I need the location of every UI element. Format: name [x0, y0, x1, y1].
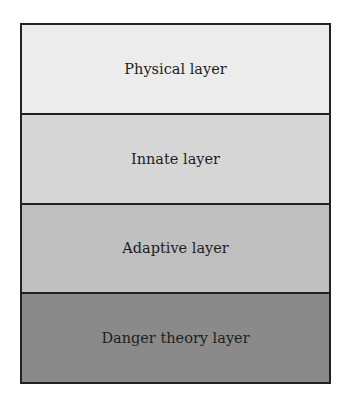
physical-layer-label: Physical layer	[124, 61, 226, 77]
danger-theory-layer-label: Danger theory layer	[101, 330, 249, 346]
danger-theory-layer: Danger theory layer	[22, 294, 329, 382]
innate-layer: Innate layer	[22, 115, 329, 205]
innate-layer-label: Innate layer	[131, 151, 220, 167]
layer-stack-diagram: Physical layer Innate layer Adaptive lay…	[20, 23, 331, 384]
adaptive-layer: Adaptive layer	[22, 205, 329, 295]
adaptive-layer-label: Adaptive layer	[122, 240, 229, 256]
physical-layer: Physical layer	[22, 25, 329, 115]
